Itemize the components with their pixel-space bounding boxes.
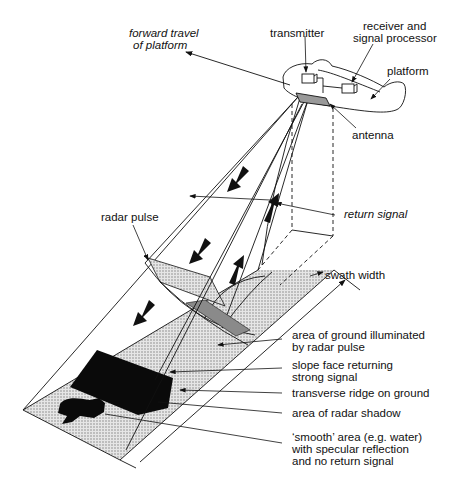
label-illuminated: area of ground illuminated by radar puls…	[292, 329, 428, 353]
label-forward-travel: forward travel of platform	[129, 27, 202, 51]
radar-pulse-band	[148, 258, 225, 306]
forward-travel-arrow	[186, 52, 290, 85]
label-return-signal: return signal	[344, 208, 408, 220]
label-platform: platform	[387, 65, 429, 77]
receiver-box	[342, 84, 357, 93]
label-slope-face: slope face returning strong signal	[292, 359, 396, 383]
label-shadow: area of radar shadow	[292, 407, 401, 419]
beam-right-edge	[258, 100, 308, 270]
label-swath-width: swath width	[325, 269, 385, 281]
antenna	[296, 93, 330, 106]
label-ridge: transverse ridge on ground	[292, 387, 429, 399]
radar-diagram: forward travel of platform transmitter r…	[0, 0, 454, 487]
label-antenna: antenna	[352, 129, 394, 141]
label-transmitter: transmitter	[270, 27, 324, 39]
label-smooth: ‘smooth’ area (e.g. water) with specular…	[291, 431, 425, 467]
transmitter-box	[302, 74, 317, 83]
label-receiver: receiver and signal processor	[353, 20, 437, 44]
label-radar-pulse: radar pulse	[101, 211, 159, 223]
